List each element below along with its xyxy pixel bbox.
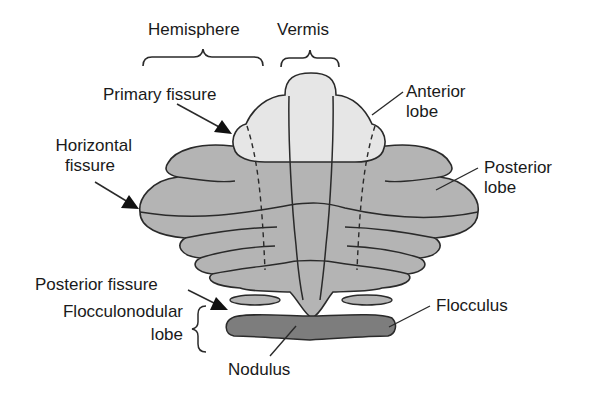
cerebellum-diagram: Hemisphere Vermis Primary fissure Anteri… (0, 0, 593, 400)
flocculonodular-brace (192, 306, 206, 352)
vermis-brace (281, 50, 339, 67)
label-posterior-lobe-line2: lobe (484, 178, 516, 198)
label-nodulus: Nodulus (228, 360, 290, 380)
label-flocculonodular-lobe-line2: lobe (18, 325, 183, 345)
label-posterior-fissure: Posterior fissure (35, 275, 158, 295)
anterior-lobe (233, 73, 385, 162)
label-anterior-lobe-line2: lobe (406, 102, 438, 122)
hemisphere-brace (143, 49, 263, 66)
label-flocculus: Flocculus (436, 296, 508, 316)
label-flocculonodular-lobe-line1: Flocculonodular (18, 302, 183, 322)
label-horizontal-fissure-line2: fissure (38, 156, 115, 176)
label-posterior-lobe-line1: Posterior (484, 158, 552, 178)
label-hemisphere: Hemisphere (148, 20, 240, 40)
label-anterior-lobe-line1: Anterior (406, 82, 466, 102)
flocculonodular-lobe (226, 315, 395, 340)
label-primary-fissure: Primary fissure (103, 85, 216, 105)
label-horizontal-fissure-line1: Horizontal (38, 136, 132, 156)
label-vermis: Vermis (277, 20, 329, 40)
